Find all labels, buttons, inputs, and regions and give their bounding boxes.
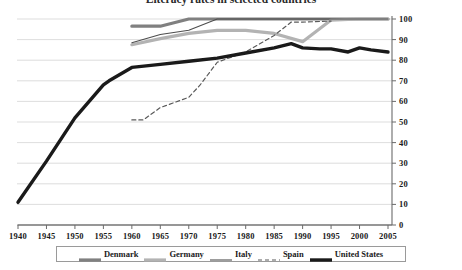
x-axis-tick-label: 1940 bbox=[9, 231, 27, 241]
y-axis-tick-label: 40 bbox=[399, 138, 408, 148]
legend-label: Denmark bbox=[104, 249, 138, 259]
legend-label: Spain bbox=[283, 249, 304, 259]
dashed-line-swatch-icon bbox=[258, 250, 280, 258]
x-axis-tick-label: 2000 bbox=[351, 231, 369, 241]
x-axis-tick-label: 1950 bbox=[66, 231, 84, 241]
y-axis-tick-label: 50 bbox=[399, 117, 408, 127]
legend-label: United States bbox=[335, 249, 383, 259]
legend-item-united-states[interactable]: United States bbox=[307, 249, 386, 259]
y-axis-tick-label: 10 bbox=[399, 199, 408, 209]
line-chart-svg bbox=[0, 0, 462, 240]
x-axis-tick-label: 1945 bbox=[38, 231, 56, 241]
x-axis-tick-label: 1980 bbox=[237, 231, 255, 241]
legend-label: Italy bbox=[235, 249, 252, 259]
series-line-spain bbox=[132, 21, 331, 120]
legend-line-glyph bbox=[144, 256, 166, 264]
legend-line-glyph bbox=[210, 256, 232, 264]
x-axis-tick-label: 1990 bbox=[294, 231, 312, 241]
legend-item-spain[interactable]: Spain bbox=[255, 249, 307, 259]
legend-label: Germany bbox=[169, 249, 203, 259]
chart-page: Literacy rates in selected countries 010… bbox=[0, 0, 462, 270]
y-axis-tick-label: 60 bbox=[399, 96, 408, 106]
x-axis-tick-label: 1965 bbox=[151, 231, 169, 241]
y-axis-tick-label: 30 bbox=[399, 158, 408, 168]
x-axis-tick-label: 2005 bbox=[379, 231, 397, 241]
legend-line-glyph bbox=[258, 256, 280, 264]
series-line-united-states bbox=[18, 44, 388, 203]
chart-legend: DenmarkGermanyItalySpainUnited States bbox=[56, 246, 406, 262]
y-axis-tick-label: 80 bbox=[399, 55, 408, 65]
x-axis-tick-label: 1955 bbox=[94, 231, 112, 241]
x-axis-tick-label: 1960 bbox=[123, 231, 141, 241]
legend-line-glyph bbox=[310, 256, 332, 264]
x-axis-tick-label: 1975 bbox=[208, 231, 226, 241]
line-swatch-icon bbox=[210, 250, 232, 258]
x-axis-tick-label: 1995 bbox=[322, 231, 340, 241]
legend-item-denmark[interactable]: Denmark bbox=[76, 249, 141, 259]
y-axis-tick-label: 70 bbox=[399, 76, 408, 86]
line-swatch-icon bbox=[144, 250, 166, 258]
axes bbox=[18, 16, 396, 229]
x-axis-tick-label: 1985 bbox=[265, 231, 283, 241]
legend-item-germany[interactable]: Germany bbox=[141, 249, 206, 259]
line-swatch-icon bbox=[310, 250, 332, 258]
y-axis-tick-label: 90 bbox=[399, 35, 408, 45]
legend-item-italy[interactable]: Italy bbox=[207, 249, 255, 259]
y-axis-tick-label: 20 bbox=[399, 179, 408, 189]
chart-plot-area: 0102030405060708090100 19401945195019551… bbox=[0, 0, 462, 240]
y-axis-tick-label: 100 bbox=[399, 14, 412, 24]
y-axis-tick-label: 0 bbox=[399, 220, 403, 230]
legend-line-glyph bbox=[79, 256, 101, 264]
line-swatch-icon bbox=[79, 250, 101, 258]
x-axis-tick-label: 1970 bbox=[180, 231, 198, 241]
